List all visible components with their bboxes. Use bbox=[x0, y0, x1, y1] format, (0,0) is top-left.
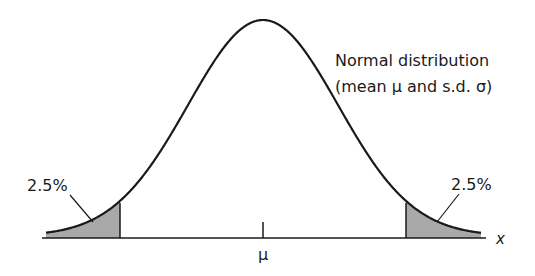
mean-label: μ bbox=[258, 245, 268, 264]
left-tail-label: 2.5% bbox=[27, 176, 68, 195]
chart-title: Normal distribution bbox=[335, 51, 489, 70]
x-axis-label: x bbox=[495, 230, 505, 248]
right-tail-label: 2.5% bbox=[451, 175, 492, 194]
right-tail-leader-line bbox=[437, 194, 459, 222]
chart-subtitle: (mean μ and s.d. σ) bbox=[335, 77, 492, 96]
left-tail-leader-line bbox=[70, 195, 93, 222]
left-tail-shaded-area bbox=[46, 201, 120, 238]
right-tail-shaded-area bbox=[406, 201, 481, 238]
normal-distribution-chart: Normal distribution (mean μ and s.d. σ) … bbox=[0, 0, 535, 276]
